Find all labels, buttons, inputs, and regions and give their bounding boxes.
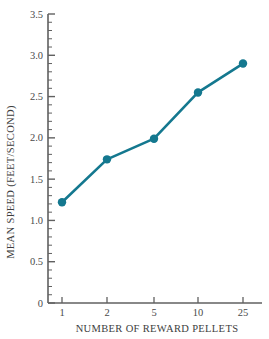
y-axis-tick-label: 1.5 [30, 174, 43, 185]
y-axis-tick-label: 3.0 [30, 50, 43, 61]
x-axis-title: NUMBER OF REWARD PELLETS [76, 323, 239, 334]
data-point-marker [150, 134, 158, 142]
y-axis-title-text: MEAN SPEED (FEET/SECOND) [5, 105, 17, 259]
x-axis-tick-label: 25 [238, 307, 249, 318]
y-axis-tick-label: 0 [38, 298, 43, 309]
data-point-marker [103, 155, 111, 163]
x-axis-tick-label: 5 [151, 307, 156, 318]
data-point-marker [58, 198, 66, 206]
x-axis-tick-label: 2 [104, 307, 109, 318]
y-axis-tick-label: 2.5 [30, 91, 43, 102]
y-axis-tick-label: 2.0 [30, 132, 43, 143]
y-axis-tick-label: 3.5 [30, 9, 43, 20]
x-axis-title-text: NUMBER OF REWARD PELLETS [76, 323, 239, 334]
x-axis-tick-label: 1 [59, 307, 64, 318]
y-axis-title: MEAN SPEED (FEET/SECOND) [5, 105, 17, 259]
y-axis-tick-label: 1.0 [30, 215, 43, 226]
x-axis-tick-label: 10 [193, 307, 204, 318]
data-point-marker [239, 59, 247, 67]
data-point-marker [194, 88, 202, 96]
chart-container: 00.51.01.52.02.53.03.5 1251025 MEAN SPEE… [0, 0, 269, 339]
y-axis-tick-label: 0.5 [30, 256, 43, 267]
line-chart-figure: 00.51.01.52.02.53.03.5 1251025 MEAN SPEE… [0, 0, 269, 339]
